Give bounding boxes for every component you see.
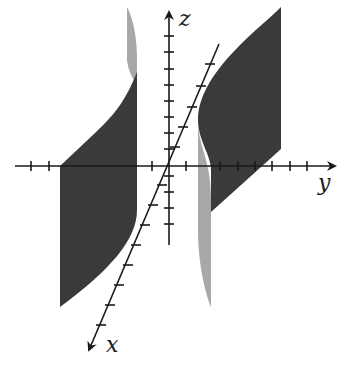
z-axis <box>164 12 174 245</box>
left-surface-light-strip <box>127 7 137 85</box>
z-axis-label: z <box>179 8 191 30</box>
y-axis-label: y <box>318 172 330 194</box>
right-surface-dark-region <box>198 7 281 212</box>
x-axis-label: x <box>106 334 118 356</box>
surface-plot-figure: z y x <box>0 0 347 367</box>
left-surface-dark-region <box>60 72 137 307</box>
plot-canvas <box>0 0 347 367</box>
